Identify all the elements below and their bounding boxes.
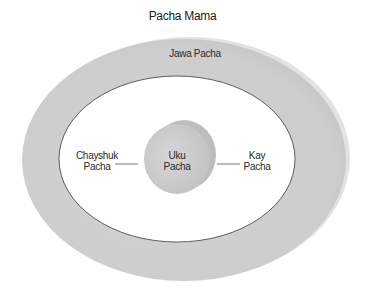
label-uku-pacha: Uku Pacha: [157, 150, 197, 172]
nested-worlds-diagram: [0, 0, 365, 296]
label-kay-line2: Pacha: [237, 161, 277, 172]
label-chayshuk-pacha: Chayshuk Pacha: [72, 150, 122, 172]
label-jawa-pacha: Jawa Pacha: [140, 48, 250, 59]
label-uku-line2: Pacha: [157, 161, 197, 172]
label-uku-line1: Uku: [157, 150, 197, 161]
label-kay-line1: Kay: [237, 150, 277, 161]
label-kay-pacha: Kay Pacha: [237, 150, 277, 172]
label-chayshuk-line1: Chayshuk: [72, 150, 122, 161]
label-chayshuk-line2: Pacha: [72, 161, 122, 172]
